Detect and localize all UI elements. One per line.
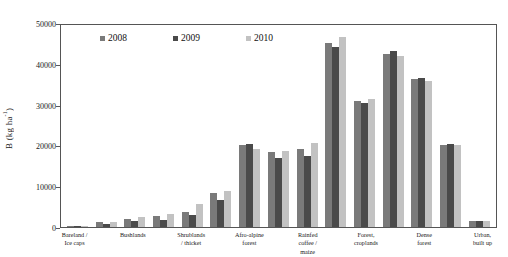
bar-2008 [383, 54, 390, 227]
legend-item: 2008 [100, 33, 127, 43]
y-axis-tick-label: 10000 [16, 183, 56, 192]
plot-area [60, 24, 497, 228]
legend-label: 2010 [254, 33, 273, 43]
y-axis-tick-mark [56, 187, 60, 188]
y-axis-tick-mark [56, 106, 60, 107]
y-axis-tick-label: 20000 [16, 142, 56, 151]
bar-2008 [210, 193, 217, 227]
bar-2009 [275, 158, 282, 227]
y-axis-tick-mark [56, 24, 60, 25]
legend-label: 2009 [181, 33, 200, 43]
bar-2009 [246, 144, 253, 227]
bar-2010 [397, 56, 404, 227]
bar-2010 [425, 81, 432, 227]
bar-2010 [311, 143, 318, 227]
bar-2010 [339, 37, 346, 227]
bar-2010 [282, 151, 289, 227]
bar-2008 [96, 222, 103, 227]
bar-2008 [67, 226, 74, 227]
bar-2010 [167, 214, 174, 227]
bar-group [354, 25, 375, 227]
bar-2008 [153, 216, 160, 227]
bar-group [153, 25, 174, 227]
bar-group [182, 25, 203, 227]
bar-2009 [304, 156, 311, 227]
chart-legend: 200820092010 [100, 33, 273, 43]
bar-group [440, 25, 461, 227]
bar-2008 [124, 219, 131, 227]
bar-2010 [81, 226, 88, 227]
bar-group [383, 25, 404, 227]
x-axis-tick-label: Rainfed coffee / maize [293, 231, 322, 257]
bar-2009 [447, 144, 454, 227]
bar-2010 [253, 149, 260, 227]
bar-group [325, 25, 346, 227]
bar-2008 [268, 152, 275, 227]
y-axis-tick-mark [56, 228, 60, 229]
bar-2010 [368, 99, 375, 227]
bar-chart-figure: B (kg ha-1) 01000020000300004000050000 2… [0, 0, 508, 257]
legend-swatch-icon [173, 36, 178, 41]
legend-item: 2010 [246, 33, 273, 43]
bar-2008 [440, 145, 447, 227]
bar-2008 [354, 101, 361, 227]
bar-group [67, 25, 88, 227]
bar-2009 [74, 226, 81, 227]
x-axis-tick-label: Dense forest [410, 231, 439, 257]
bar-group [96, 25, 117, 227]
bar-2010 [224, 191, 231, 227]
y-axis-tick-label: 40000 [16, 60, 56, 69]
bar-2009 [332, 47, 339, 227]
bar-groups [61, 25, 496, 227]
x-axis-tick-label: Shrublands / thicket [177, 231, 206, 257]
bar-2009 [217, 200, 224, 227]
bar-group [297, 25, 318, 227]
bar-2009 [418, 78, 425, 227]
x-axis-tick-label: Forest, croplands [351, 231, 380, 257]
x-axis-tick-labels: Bareland / Ice caps.Bushlands.Shrublands… [60, 231, 497, 257]
bar-group [239, 25, 260, 227]
bar-2010 [196, 204, 203, 227]
bar-2010 [110, 222, 117, 227]
bar-2008 [239, 145, 246, 227]
y-axis-tick-label: 50000 [16, 20, 56, 29]
bar-2010 [454, 145, 461, 227]
bar-2009 [390, 51, 397, 227]
bar-2010 [138, 217, 145, 227]
x-axis-tick-label: Bareland / Ice caps [60, 231, 89, 257]
x-axis-tick-label: Urban, built up [468, 231, 497, 257]
y-axis-tick-label: 0 [16, 224, 56, 233]
bar-group [124, 25, 145, 227]
y-axis-tick-labels: 01000020000300004000050000 [14, 0, 56, 257]
legend-label: 2008 [108, 33, 127, 43]
bar-2008 [411, 79, 418, 227]
legend-item: 2009 [173, 33, 200, 43]
bar-2009 [160, 220, 167, 227]
bar-2009 [131, 221, 138, 227]
y-axis-title-text: B (kg ha [4, 116, 14, 149]
bar-2009 [103, 224, 110, 227]
bar-group [268, 25, 289, 227]
y-axis-title-close: ) [4, 107, 14, 110]
y-axis-tick-mark [56, 146, 60, 147]
y-axis-tick-mark [56, 65, 60, 66]
bar-group [469, 25, 490, 227]
bar-2009 [476, 221, 483, 227]
bar-group [210, 25, 231, 227]
legend-swatch-icon [246, 36, 251, 41]
bar-2009 [189, 215, 196, 227]
bar-2008 [182, 212, 189, 228]
y-axis-tick-label: 30000 [16, 101, 56, 110]
bar-2008 [469, 221, 476, 227]
bar-2010 [483, 221, 490, 227]
bar-2009 [361, 103, 368, 227]
bar-2008 [325, 43, 332, 227]
legend-swatch-icon [100, 36, 105, 41]
bar-group [411, 25, 432, 227]
x-axis-tick-label: Bushlands [118, 231, 147, 257]
bar-2008 [297, 149, 304, 227]
y-axis-title-superscript: -1 [2, 111, 8, 116]
x-axis-tick-label: Afro-alpine forest [235, 231, 264, 257]
